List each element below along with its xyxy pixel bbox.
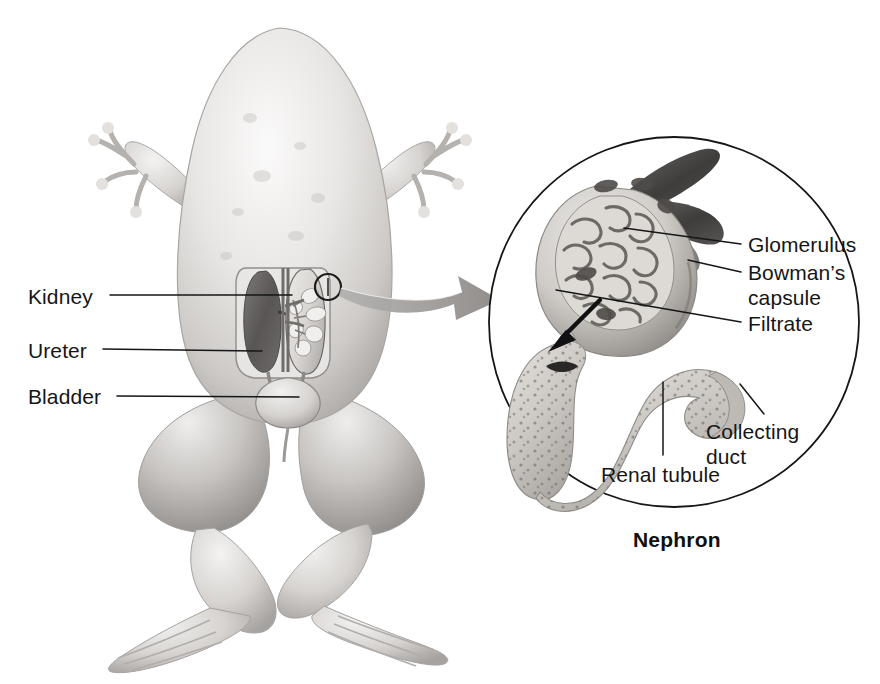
label-bowmans-capsule: Bowman’s capsule (748, 260, 878, 310)
label-bladder: Bladder (28, 384, 101, 409)
leader-bowmans-capsule (688, 260, 741, 272)
label-filtrate: Filtrate (748, 311, 813, 336)
leader-bladder (117, 396, 299, 397)
label-glomerulus: Glomerulus (748, 232, 856, 257)
leader-lines-layer (0, 0, 880, 684)
label-renal-tubule: Renal tubule (601, 462, 720, 487)
leader-filtrate (556, 290, 741, 322)
leader-ureter (103, 349, 262, 351)
leader-glomerulus (624, 228, 741, 244)
label-ureter: Ureter (28, 338, 87, 363)
nephron-caption: Nephron (633, 528, 721, 552)
figure-root: Kidney Ureter Bladder Glomerulus Bowman’… (0, 0, 880, 684)
label-collecting-duct: Collecting duct (706, 419, 826, 469)
label-kidney: Kidney (28, 284, 93, 309)
leader-collecting-duct (740, 384, 764, 414)
